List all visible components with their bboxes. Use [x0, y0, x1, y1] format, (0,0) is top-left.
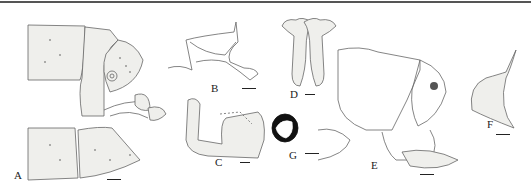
panel-f-drawing	[471, 50, 516, 128]
panel-g-drawing	[272, 114, 298, 142]
scale-bar-d	[305, 94, 315, 95]
scale-bar-g	[305, 153, 319, 154]
panel-c-drawing	[186, 99, 264, 158]
scale-bar-c	[240, 162, 250, 163]
panel-e-drawing	[318, 48, 458, 168]
panel-label-g: G	[289, 150, 297, 161]
panel-label-e: E	[371, 160, 378, 171]
panel-b-drawing	[168, 22, 258, 80]
illustration-plate	[0, 0, 531, 190]
scale-bar-e	[420, 174, 434, 175]
scale-bar-f	[496, 134, 510, 135]
panel-label-a: A	[14, 170, 22, 181]
panel-label-b: B	[211, 83, 218, 94]
panel-label-c: C	[215, 157, 222, 168]
panel-label-f: F	[487, 119, 493, 130]
scale-bar-a	[107, 179, 121, 180]
scale-bar-b	[242, 88, 256, 89]
panel-label-d: D	[290, 89, 298, 100]
panel-a-drawing	[28, 25, 166, 180]
panel-d-drawing	[282, 18, 336, 86]
